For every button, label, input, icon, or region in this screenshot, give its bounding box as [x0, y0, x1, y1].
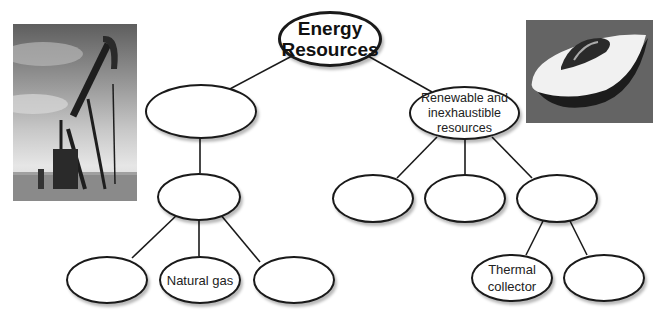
- thermal-collector-label: Thermal collector: [488, 261, 536, 295]
- right-child-node-1[interactable]: [332, 174, 414, 223]
- right-leaf-node-2[interactable]: [563, 254, 645, 302]
- left-sub-node[interactable]: [157, 173, 241, 221]
- right-branch-label: Renewable and inexhaustible resources: [421, 91, 508, 136]
- solar-car-photo: [526, 20, 653, 123]
- left-leaf-node-natural-gas: Natural gas: [159, 256, 241, 304]
- left-leaf-node-3[interactable]: [253, 256, 335, 304]
- natural-gas-label: Natural gas: [167, 272, 233, 289]
- right-branch-node-renewable: Renewable and inexhaustible resources: [409, 86, 520, 140]
- right-child-node-2[interactable]: [424, 174, 506, 223]
- oil-pump-jack-photo: [13, 24, 137, 201]
- right-leaf-node-thermal-collector: Thermal collector: [471, 254, 553, 302]
- concept-map: Energy Resources Renewable and inexhaust…: [0, 0, 662, 319]
- left-leaf-node-1[interactable]: [66, 256, 148, 304]
- right-child-node-3[interactable]: [516, 174, 598, 223]
- left-branch-node[interactable]: [145, 84, 257, 139]
- root-node-energy-resources: Energy Resources: [278, 11, 382, 67]
- root-node-label: Energy Resources: [281, 18, 378, 60]
